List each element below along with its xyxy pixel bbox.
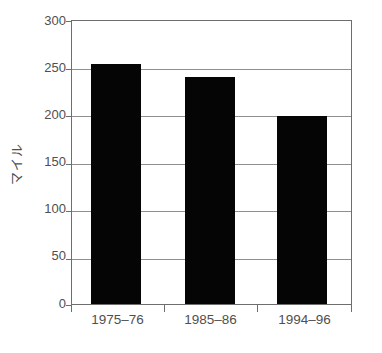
y-axis-tick-labels: 300 250 200 150 100 50 0 xyxy=(22,0,66,353)
x-tick-label-1: 1975–76 xyxy=(71,313,164,327)
bar-1994-96[interactable] xyxy=(277,116,327,304)
y-tick-mark-250 xyxy=(66,69,72,70)
y-tick-label-250: 250 xyxy=(26,61,66,74)
y-tick-mark-50 xyxy=(66,259,72,260)
y-tick-label-300: 300 xyxy=(26,14,66,27)
y-tick-label-50: 50 xyxy=(26,249,66,262)
bar-1985-86[interactable] xyxy=(185,77,235,304)
x-axis-tick-sep-2 xyxy=(257,305,258,312)
x-axis-tick-sep-1 xyxy=(164,305,165,312)
y-tick-mark-100 xyxy=(66,211,72,212)
x-axis-tick-start xyxy=(71,305,72,312)
bar-1975-76[interactable] xyxy=(91,64,141,304)
y-tick-label-0: 0 xyxy=(26,297,66,310)
y-tick-mark-150 xyxy=(66,164,72,165)
y-tick-mark-300 xyxy=(66,21,72,22)
y-tick-mark-200 xyxy=(66,116,72,117)
bar-chart: マイル 300 250 200 150 100 50 0 1975–76 198… xyxy=(0,0,382,353)
x-tick-label-3: 1994–96 xyxy=(257,313,352,327)
plot-area xyxy=(71,20,352,305)
x-axis-tick-end xyxy=(351,305,352,312)
y-tick-label-200: 200 xyxy=(26,108,66,121)
y-tick-label-100: 100 xyxy=(26,202,66,215)
y-tick-label-150: 150 xyxy=(26,155,66,168)
x-tick-label-2: 1985–86 xyxy=(164,313,257,327)
